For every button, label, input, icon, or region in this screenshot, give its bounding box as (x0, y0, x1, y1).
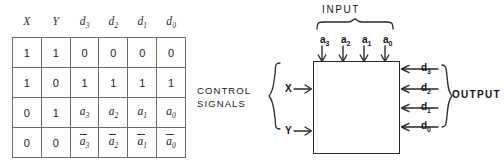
table-cell: 0 (70, 38, 99, 68)
cell-value: 0 (24, 137, 30, 149)
cell-value: 0 (24, 107, 30, 119)
cell-subscript: 1 (143, 142, 147, 151)
output-pin-d2-sub: 2 (427, 88, 431, 95)
cell-value: a3 (80, 105, 90, 117)
table-header-row: X Y d3 d2 d1 d0 (13, 8, 186, 38)
table-cell: a3 (70, 128, 99, 158)
table-cell: 1 (99, 68, 128, 98)
logic-block (313, 61, 400, 154)
cell-base: 0 (168, 47, 174, 59)
column-header-x: X (13, 8, 42, 38)
cell-value: 0 (82, 47, 88, 59)
cell-value: 0 (168, 47, 174, 59)
column-header-y: Y (41, 8, 70, 38)
table-cell: a0 (157, 98, 186, 128)
table-row: 101111 (13, 68, 186, 98)
table-cell: 1 (157, 68, 186, 98)
table-cell: 1 (13, 38, 42, 68)
cell-subscript: 3 (86, 111, 90, 120)
cell-value: 1 (139, 77, 145, 89)
cell-base: 1 (110, 77, 116, 89)
input-brace (316, 18, 394, 30)
truth-table-header: X Y d3 d2 d1 d0 (13, 8, 186, 38)
column-header-x-text: X (23, 15, 30, 27)
table-cell: 0 (157, 38, 186, 68)
table-cell: 1 (41, 98, 70, 128)
table-cell: a2 (99, 128, 128, 158)
table-cell: 0 (13, 98, 42, 128)
cell-value: 1 (24, 47, 30, 59)
control-pin-y-label: Y (285, 125, 292, 136)
table-row: 01a3a2a1a0 (13, 98, 186, 128)
cell-value: 0 (110, 47, 116, 59)
cell-value: 1 (53, 47, 59, 59)
cell-base: 0 (82, 47, 88, 59)
table-cell: 1 (128, 68, 157, 98)
cell-base: 1 (82, 77, 88, 89)
cell-value: a0 (166, 105, 176, 117)
cell-value: 1 (110, 77, 116, 89)
input-label: INPUT (322, 4, 360, 15)
complemented-value: a0 (166, 134, 176, 150)
control-signals-line-1: CONTROL (197, 84, 251, 97)
output-pin-d2-label: d2 (421, 82, 431, 95)
output-pin-d3-label: d3 (421, 62, 431, 75)
output-pin-d3-sub: 3 (427, 68, 431, 75)
column-header-y-text: Y (52, 15, 59, 27)
output-pin-d0-label: d0 (421, 120, 431, 133)
table-cell: 0 (13, 128, 42, 158)
cell-value: a2 (109, 105, 119, 117)
output-pin-d1-label: d1 (421, 101, 431, 114)
cell-value: 1 (24, 77, 30, 89)
column-header-d0: d0 (157, 8, 186, 38)
table-cell: 1 (13, 68, 42, 98)
table-cell: 0 (41, 128, 70, 158)
column-header-d1-sub: 1 (143, 21, 147, 30)
cell-base: 0 (53, 77, 59, 89)
cell-base: 0 (24, 107, 30, 119)
cell-subscript: 1 (143, 111, 147, 120)
control-signals-line-2: SIGNALS (197, 97, 251, 110)
output-pin-d0-sub: 0 (427, 126, 431, 133)
table-cell: 0 (99, 38, 128, 68)
cell-base: 0 (110, 47, 116, 59)
cell-base: 1 (24, 47, 30, 59)
column-header-d0-sub: 0 (172, 21, 176, 30)
output-label: OUTPUT (452, 89, 501, 100)
truth-table-grid: X Y d3 d2 d1 d0 (12, 8, 186, 158)
table-cell: a3 (70, 98, 99, 128)
complemented-value: a2 (109, 134, 119, 150)
cell-value: 1 (168, 77, 174, 89)
table-cell: 1 (70, 68, 99, 98)
cell-base: 1 (24, 77, 30, 89)
cell-subscript: 2 (114, 142, 118, 151)
cell-subscript: 3 (86, 142, 90, 151)
cell-value: 0 (53, 77, 59, 89)
cell-value: 0 (53, 137, 59, 149)
cell-value: 1 (53, 107, 59, 119)
truth-table-body: 11000010111101a3a2a1a000a3a2a1a0 (13, 38, 186, 158)
cell-value: 0 (139, 47, 145, 59)
output-arrows (400, 64, 440, 130)
control-signals-label: CONTROL SIGNALS (197, 84, 251, 110)
table-cell: 0 (128, 38, 157, 68)
cell-base: 0 (53, 137, 59, 149)
output-pin-d1-sub: 1 (427, 107, 431, 114)
cell-base: 1 (53, 107, 59, 119)
table-cell: a0 (157, 128, 186, 158)
column-header-d3-sub: 3 (86, 21, 90, 30)
cell-subscript: 2 (114, 111, 118, 120)
cell-base: 0 (139, 47, 145, 59)
table-row: 00a3a2a1a0 (13, 128, 186, 158)
column-header-d3: d3 (70, 8, 99, 38)
table-row: 110000 (13, 38, 186, 68)
complemented-value: a1 (137, 134, 147, 150)
column-header-d2: d2 (99, 8, 128, 38)
cell-subscript: 0 (172, 111, 176, 120)
complemented-value: a3 (80, 134, 90, 150)
table-cell: a2 (99, 98, 128, 128)
figure-canvas: X Y d3 d2 d1 d0 (0, 0, 504, 164)
cell-base: 0 (24, 137, 30, 149)
cell-value: a1 (137, 105, 147, 117)
column-header-d1: d1 (128, 8, 157, 38)
